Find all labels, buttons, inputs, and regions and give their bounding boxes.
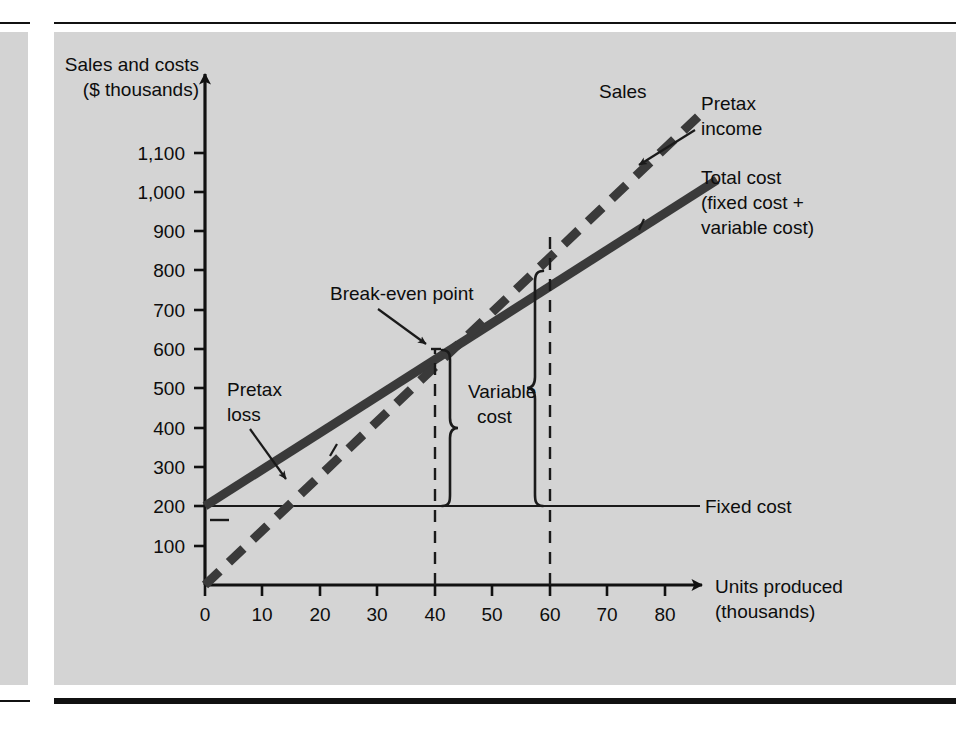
y-tick-label-300: 300 — [153, 457, 185, 478]
page-rule-bottom — [54, 698, 956, 704]
x-tick-label-20: 20 — [309, 604, 330, 625]
page-rule-stub-bottom — [0, 700, 30, 702]
page-rule-stub-top — [0, 22, 30, 24]
adjacent-panel-bleed — [0, 32, 28, 685]
y-tick-label-100: 100 — [153, 536, 185, 557]
pretax-income-leader — [639, 130, 695, 165]
pretax-loss-label-line1: Pretax — [227, 379, 282, 400]
sales-label: Sales — [599, 81, 647, 102]
x-tick-label-30: 30 — [366, 604, 387, 625]
y-tick-label-800: 800 — [153, 260, 185, 281]
x-tick-label-40: 40 — [424, 604, 445, 625]
y-axis-title-line2: ($ thousands) — [83, 79, 199, 100]
x-tick-label-50: 50 — [481, 604, 502, 625]
pretax-income-label-line2: income — [701, 118, 762, 139]
y-tick-label-400: 400 — [153, 418, 185, 439]
variable-cost-brace-x40 — [442, 350, 458, 506]
break-even-leader — [378, 309, 426, 344]
y-tick-label-700: 700 — [153, 300, 185, 321]
x-tick-label-80: 80 — [654, 604, 675, 625]
break-even-label: Break-even point — [330, 283, 474, 304]
y-axis-title-line1: Sales and costs — [65, 54, 199, 75]
x-tick-label-60: 60 — [539, 604, 560, 625]
y-tick-label-1100: 1,100 — [137, 143, 185, 164]
x-tick-label-70: 70 — [596, 604, 617, 625]
y-axis-title: Sales and costs ($ thousands) — [65, 54, 199, 100]
total-cost-label-line2: (fixed cost + — [701, 192, 804, 213]
x-axis-title-line1: Units produced — [715, 576, 843, 597]
total-cost-label-line1: Total cost — [701, 167, 782, 188]
y-axis-tick-labels: 1,100 1,000 900 800 700 600 500 400 300 … — [137, 143, 185, 557]
variable-cost-label-line2: cost — [477, 406, 513, 427]
y-tick-label-600: 600 — [153, 339, 185, 360]
break-even-chart-panel: 1,100 1,000 900 800 700 600 500 400 300 … — [54, 32, 956, 685]
x-axis-title-line2: (thousands) — [715, 601, 815, 622]
x-tick-label-0: 0 — [200, 604, 211, 625]
x-axis-ticks — [205, 585, 665, 596]
page-canvas: 1,100 1,000 900 800 700 600 500 400 300 … — [0, 0, 964, 729]
total-cost-label-line3: variable cost) — [701, 217, 814, 238]
pretax-loss-line-tick — [330, 444, 337, 456]
x-tick-label-10: 10 — [251, 604, 272, 625]
pretax-income-label-line1: Pretax — [701, 93, 756, 114]
y-tick-label-500: 500 — [153, 378, 185, 399]
y-axis-ticks — [194, 153, 205, 546]
x-axis-title: Units produced (thousands) — [715, 576, 843, 622]
break-even-chart: 1,100 1,000 900 800 700 600 500 400 300 … — [54, 32, 956, 685]
page-rule-top — [54, 22, 956, 24]
x-axis-tick-labels: 0 10 20 30 40 50 60 70 80 — [200, 604, 676, 625]
y-tick-label-200: 200 — [153, 496, 185, 517]
fixed-cost-label: Fixed cost — [705, 496, 792, 517]
y-tick-label-900: 900 — [153, 221, 185, 242]
variable-cost-label-line1: Variable — [468, 381, 536, 402]
y-tick-label-1000: 1,000 — [137, 182, 185, 203]
pretax-loss-label-line2: loss — [227, 404, 261, 425]
sales-line — [205, 114, 701, 585]
